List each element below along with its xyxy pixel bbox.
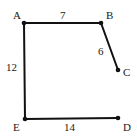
- polyline-diagram: A B C D E 7 6 12 14: [0, 0, 137, 138]
- edge-length-labels: 7 6 12 14: [6, 9, 104, 133]
- edge-a-e: [24, 23, 25, 119]
- vertex-label-a: A: [13, 9, 21, 21]
- edge-e-d: [25, 118, 118, 119]
- edge-length-e-d: 14: [64, 121, 76, 133]
- edge-length-a-e: 12: [6, 61, 17, 73]
- vertex-point-e: [23, 117, 28, 122]
- vertex-label-c: C: [123, 66, 130, 78]
- edge-b-c: [101, 23, 118, 70]
- vertex-point-a: [22, 21, 27, 26]
- vertex-label-b: B: [106, 9, 113, 21]
- vertex-label-d: D: [123, 121, 131, 133]
- edge-length-b-c: 6: [98, 45, 104, 57]
- edge-length-a-b: 7: [60, 9, 66, 21]
- vertex-labels: A B C D E: [13, 9, 131, 133]
- vertex-point-c: [116, 68, 121, 73]
- vertex-point-b: [99, 21, 104, 26]
- edges: [24, 23, 118, 119]
- vertex-point-d: [116, 116, 121, 121]
- vertex-label-e: E: [13, 121, 20, 133]
